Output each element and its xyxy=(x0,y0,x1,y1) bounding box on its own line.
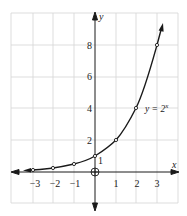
x-tick-label: −3 xyxy=(30,178,41,189)
y-tick-label: 2 xyxy=(87,135,92,146)
function-label: y = 2x xyxy=(144,102,169,114)
curve-up-arrow-icon xyxy=(159,23,164,32)
y-tick-label: 6 xyxy=(87,71,92,82)
y-tick-label: 4 xyxy=(87,103,92,114)
point-3 xyxy=(155,43,158,46)
point-2 xyxy=(134,106,137,109)
x-axis-label: x xyxy=(171,159,177,170)
point-1 xyxy=(114,138,117,141)
x-tick-label: 2 xyxy=(135,178,140,189)
y-tick-labels: 2 4 6 8 xyxy=(87,40,92,146)
point-0 xyxy=(93,154,96,157)
point-neg1 xyxy=(72,162,75,165)
exponential-graph: −3 −2 −1 1 2 3 2 4 6 8 1 x y y = 2x xyxy=(0,0,187,216)
y-tick-label: 8 xyxy=(87,40,92,51)
function-label-exponent: x xyxy=(164,102,169,110)
point-neg2 xyxy=(51,166,54,169)
x-tick-label: 1 xyxy=(114,178,119,189)
x-axis-left-arrow-icon xyxy=(11,170,19,175)
y-intercept-label: 1 xyxy=(98,155,103,166)
x-tick-label: −1 xyxy=(70,178,81,189)
x-tick-label: 3 xyxy=(155,178,160,189)
function-label-base: y = 2 xyxy=(144,104,165,114)
origin-marker xyxy=(91,168,99,176)
point-neg3 xyxy=(31,168,34,171)
x-tick-label: −2 xyxy=(50,178,61,189)
y-axis-down-arrow-icon xyxy=(93,203,98,211)
y-axis-label: y xyxy=(98,11,104,22)
